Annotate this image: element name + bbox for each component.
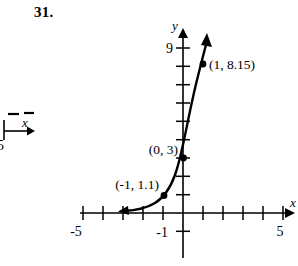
point-label-bottom: (-1, 1.1) [115,177,159,192]
x-axis-label: x [289,195,296,210]
textbook-figure-31: 31. x 5 [0,0,298,266]
point-marker-0-3 [180,155,187,162]
edge-tick-label-5: 5 [0,138,4,153]
x-tick-label--5: -5 [70,224,82,239]
coordinate-axes: y x -5 5 -1 9 [70,18,296,258]
x-tick-label-5: 5 [277,224,284,239]
edge-x-axis-label: x [21,115,28,130]
y-tick-label--1: -1 [156,225,168,240]
left-edge-partial-figure: x 5 [0,113,35,153]
point-label-top: (1, 8.15) [209,57,255,72]
point-marker--1-1.1 [161,192,168,199]
y-axis-label: y [170,18,178,33]
data-point-labels: (1, 8.15) (0, 3) (-1, 1.1) [115,57,255,192]
curve-up-arrowhead [201,33,212,47]
point-label-middle: (0, 3) [149,142,178,157]
edge-axis-arrowhead [27,127,35,136]
point-marker-1-8.15 [200,61,207,68]
graph-canvas: x 5 [0,0,298,266]
y-tick-label-9: 9 [166,41,173,56]
y-axis-arrowhead [178,28,188,38]
